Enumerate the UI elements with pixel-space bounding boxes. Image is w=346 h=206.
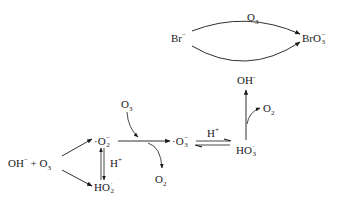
bromate-subsup: −3 [321,32,325,46]
bromide-charge: − [182,31,186,39]
reactants-hydroxide-ozone: OH− + O3 [8,157,51,169]
oh-charge: − [24,156,28,164]
arc-arrow-o3-oxidation [192,21,300,34]
o2-ho3-sub: 2 [271,109,275,117]
arrow-to-superoxide [62,139,92,156]
reaction-arrows [0,0,346,206]
plus-sign: + [31,157,37,169]
superoxide-subscript: 2 [106,142,110,149]
species-bromate: BrO−3 [302,32,325,46]
arc-arrow-oh-oxidation [192,42,300,61]
ozonide-subscript: 3 [184,142,188,149]
o3-sub: 3 [48,164,52,172]
ho2-subsup: ·2 [110,181,114,195]
oh-base: OH [8,157,24,169]
arrow-o2-out [148,143,162,168]
label-o3-in: O3 [121,98,132,110]
arrow-o2-release-ho3 [247,108,260,124]
species-ozonide: ·O−3 [172,135,188,149]
ho2-subscript: 2 [110,188,114,195]
ho3-subsup: ·3 [252,144,256,158]
ho3-subscript: 3 [252,151,256,158]
label-o2-from-ho3: O2 [263,102,274,114]
top-o3-sub: 3 [255,18,259,26]
label-h-plus-equilibrium: H+ [207,127,219,139]
label-o2-out: O2 [155,173,166,185]
ozonide-base: O [176,135,184,147]
ho2-base: HO [94,181,110,193]
superoxide-subsup: −2 [106,135,110,149]
o3-in-sub: 3 [129,105,133,113]
oh-top-charge: - [253,73,255,81]
o3-base: O [40,157,48,169]
o2-out-base: O [155,173,163,185]
arrow-o3-in [127,112,138,137]
species-bromide: Br− [171,32,186,44]
label-h-plus-vertical: H+ [110,157,122,169]
ozonide-subsup: −3 [184,135,188,149]
superoxide-base: O [98,135,106,147]
o2-out-sub: 2 [163,180,167,188]
species-hydroperoxide: HO·2 [94,181,114,195]
hplus-eq-charge: + [215,126,219,134]
hplus-eq-base: H [207,127,215,139]
species-hydroxide-top: OH- [237,74,255,86]
ho3-base: HO [236,144,252,156]
oh-top-base: OH [237,74,253,86]
hplus-v-base: H [110,157,118,169]
bromide-base: Br [171,32,182,44]
label-top-arc-o3: O3 [247,11,258,23]
hplus-v-charge: + [118,156,122,164]
arrow-to-hydroperoxide [62,170,92,186]
bromate-base: BrO [302,32,321,44]
bromate-subscript: 3 [321,39,325,46]
species-superoxide: ·O−2 [94,135,110,149]
o3-in-base: O [121,98,129,110]
o2-ho3-base: O [263,102,271,114]
top-o3-base: O [247,11,255,23]
species-hydrotrioxide: HO·3 [236,144,256,158]
